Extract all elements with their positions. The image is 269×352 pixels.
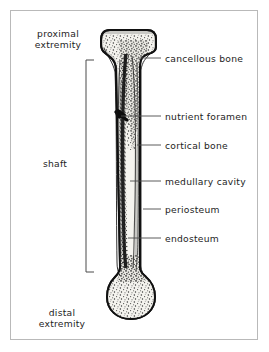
figure-page: proximal extremity shaft distal extremit… <box>0 0 269 352</box>
label-proximal-extremity-line2: extremity <box>26 39 90 50</box>
shaft-bracket <box>86 60 94 272</box>
label-nutrient-foramen: nutrient foramen <box>165 111 247 122</box>
label-shaft-line1: shaft <box>26 158 84 169</box>
bone-illustration <box>101 30 156 320</box>
label-cortical-bone: cortical bone <box>165 140 228 151</box>
label-endosteum: endosteum <box>165 233 219 244</box>
label-cancellous-bone: cancellous bone <box>165 53 243 64</box>
label-medullary-cavity: medullary cavity <box>165 176 246 187</box>
label-proximal-extremity-line1: proximal <box>26 28 90 39</box>
label-proximal-extremity: proximal extremity <box>26 28 90 50</box>
periosteum-membrane-right <box>141 54 150 277</box>
label-distal-extremity-line2: extremity <box>30 318 94 329</box>
label-distal-extremity: distal extremity <box>30 307 94 329</box>
endosteum-speckle-left <box>123 54 126 268</box>
label-shaft: shaft <box>26 158 84 169</box>
label-distal-extremity-line1: distal <box>30 307 94 318</box>
label-periosteum: periosteum <box>165 204 220 215</box>
